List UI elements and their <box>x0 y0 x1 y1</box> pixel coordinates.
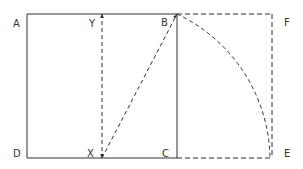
golden-rectangle-diagram <box>0 0 303 169</box>
arrowhead-b-icon <box>173 14 177 18</box>
arrowhead-y-icon <box>100 14 104 18</box>
label-x: X <box>87 149 94 159</box>
arc-b-e <box>177 14 270 158</box>
label-c: C <box>162 149 169 159</box>
label-e: E <box>284 149 290 159</box>
label-f: F <box>284 18 290 28</box>
label-a: A <box>13 19 20 29</box>
label-b: B <box>161 18 168 28</box>
label-y: Y <box>89 19 95 29</box>
edge-x-b <box>102 14 177 158</box>
label-d: D <box>13 149 21 159</box>
